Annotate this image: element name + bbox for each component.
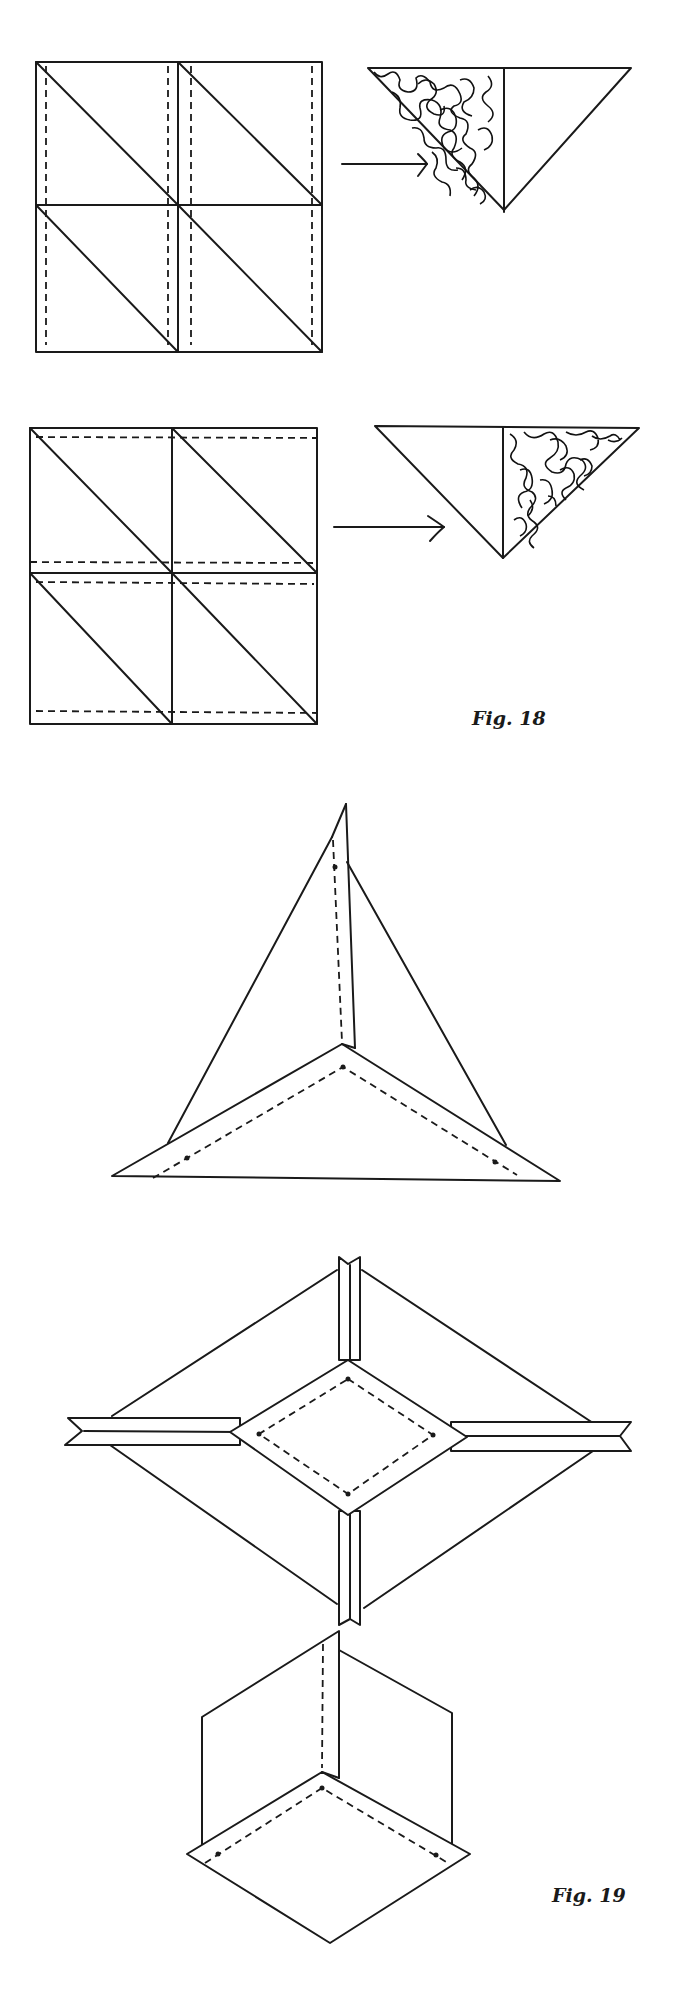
- right-arrow-icon: [334, 516, 444, 541]
- fig18-folded-triangle-2: [375, 426, 639, 558]
- fig18-grid-2: [30, 428, 317, 724]
- figure-caption-18: Fig. 18: [472, 707, 546, 729]
- right-arrow-icon: [342, 154, 427, 176]
- fig19-pyramid: [112, 804, 560, 1181]
- fig18-folded-triangle-1: [368, 68, 631, 212]
- diagram-canvas: [0, 0, 674, 1990]
- figure-caption-19: Fig. 19: [552, 1884, 626, 1906]
- fig18-grid-1: [36, 62, 322, 352]
- fig19-flat-diamond: [65, 1257, 631, 1625]
- fig19-box-corner: [187, 1631, 470, 1943]
